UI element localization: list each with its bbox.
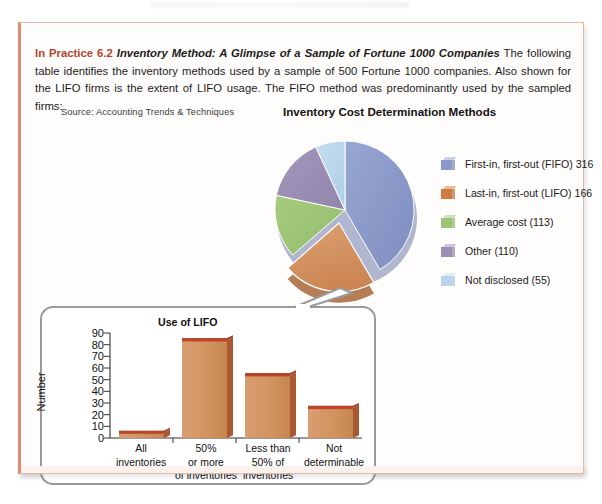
legend-swatch-other-icon [441,244,454,257]
bar-50-percent-or-more [182,335,233,438]
scan-artifact [150,2,410,8]
source-line: Source: Accounting Trends & Techniques [61,107,234,117]
legend-item-fifo: First-in, first-out (FIFO) 316 [441,149,602,178]
in-practice-box: In Practice 6.2 Inventory Method: A Glim… [18,22,584,474]
legend-label-other: Other (110) [465,245,518,257]
pie-chart [253,126,438,306]
practice-number-label: In Practice 6.2 [35,47,113,59]
legend-swatch-not-disclosed-icon [441,273,454,286]
pie-legend: First-in, first-out (FIFO) 316 Last-in, … [441,149,602,294]
bar-less-than-50-percent [245,370,296,438]
pie-chart-svg [253,126,438,306]
in-practice-bottom-bar [18,466,584,474]
legend-item-lifo: Last-in, first-out (LIFO) 166 [441,178,602,207]
bar-chart: Number 90 80 70 60 50 40 30 20 10 0 [40,288,376,485]
practice-title: Inventory Method: A Glimpse of a Sample … [117,47,500,59]
legend-swatch-lifo-icon [441,186,454,199]
legend-label-not-disclosed: Not disclosed (55) [465,274,550,286]
legend-label-fifo: First-in, first-out (FIFO) 316 [465,158,593,170]
legend-swatch-average-cost-icon [441,215,454,228]
bar-all-inventories [119,428,170,438]
legend-item-not-disclosed: Not disclosed (55) [441,265,602,294]
legend-label-lifo: Last-in, first-out (LIFO) 166 [465,187,592,199]
legend-item-other: Other (110) [441,236,602,265]
lifo-callout: Use of LIFO Number 90 80 70 60 50 40 30 … [40,288,376,485]
legend-label-average-cost: Average cost (113) [465,216,554,228]
pie-chart-title: Inventory Cost Determination Methods [283,105,496,118]
xcat-not-determinable: Not determinable [292,442,376,469]
legend-swatch-fifo-icon [441,157,454,170]
legend-item-average-cost: Average cost (113) [441,207,602,236]
bar-not-determinable [308,403,359,438]
